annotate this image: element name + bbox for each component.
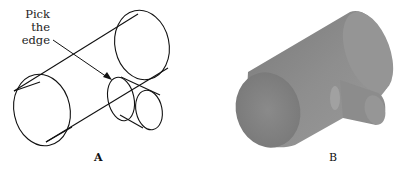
figure-a-wireframe: Pick the edge [0, 0, 200, 175]
pick-edge-callout: Pick the edge [6, 8, 50, 47]
figure-b-label: B [329, 151, 337, 164]
callout-line-2: edge [6, 34, 50, 47]
figure-b-shaded [200, 0, 402, 175]
callout-line-1: Pick the [6, 8, 50, 34]
shaded-tee-drawing [200, 0, 402, 175]
figure-a-label: A [94, 151, 103, 164]
